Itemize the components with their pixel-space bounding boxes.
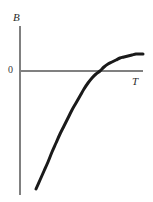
axes-group bbox=[20, 26, 143, 195]
y-axis-title: B bbox=[13, 12, 20, 23]
plot-canvas bbox=[0, 0, 153, 202]
curve-b-of-t bbox=[36, 54, 143, 189]
data-series-group bbox=[36, 54, 143, 189]
x-axis-title: T bbox=[132, 76, 138, 87]
plot-figure: B T 0 bbox=[0, 0, 153, 202]
y-axis-zero-tick-label: 0 bbox=[8, 65, 13, 75]
